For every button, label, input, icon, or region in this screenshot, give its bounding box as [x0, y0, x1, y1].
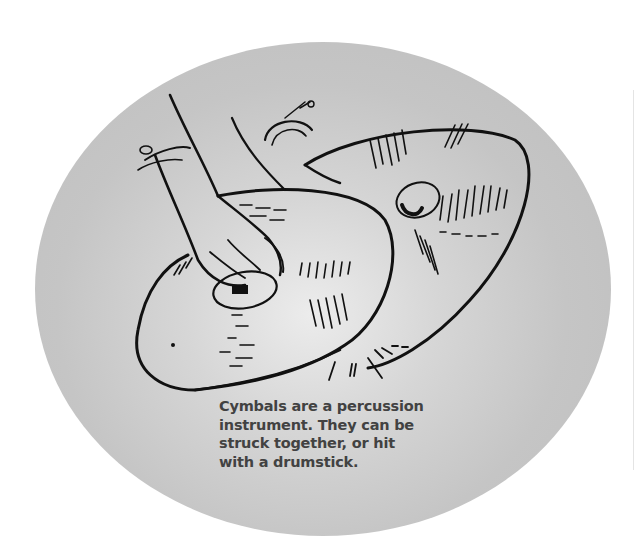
caption: Cymbals are a percussion instrument. The…	[219, 397, 479, 471]
front-cymbal-icon	[137, 190, 393, 390]
caption-line-1: Cymbals are a percussion	[219, 397, 479, 416]
caption-line-4: with a drumstick.	[219, 453, 479, 472]
caption-line-3: struck together, or hit	[219, 434, 479, 453]
caption-line-2: instrument. They can be	[219, 416, 479, 435]
back-cymbal-icon	[305, 124, 529, 368]
impact-lines-icon	[329, 346, 408, 380]
